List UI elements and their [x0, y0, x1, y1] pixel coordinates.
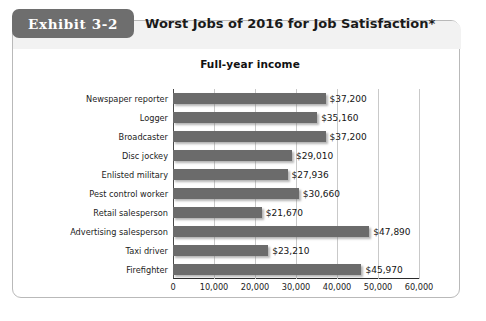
- x-tick-label: 20,000: [241, 282, 270, 292]
- bar-value-label: $47,890: [373, 227, 410, 238]
- x-tick-label: 60,000: [405, 282, 434, 292]
- bar-value-label: $30,660: [303, 189, 340, 200]
- bar-value-label: $21,670: [266, 208, 303, 219]
- x-tick-label: 10,000: [200, 282, 229, 292]
- bar: [173, 150, 292, 161]
- bar-value-label: $37,200: [330, 94, 367, 105]
- exhibit-badge: Exhibit 3-2: [12, 9, 134, 38]
- exhibit-card: Exhibit 3-2 Worst Jobs of 2016 for Job S…: [12, 20, 460, 298]
- bar-value-label: $37,200: [330, 132, 367, 143]
- exhibit-title: Worst Jobs of 2016 for Job Satisfaction*: [145, 9, 435, 38]
- category-label: Disc jockey: [122, 151, 168, 162]
- gridline: [419, 89, 420, 279]
- category-label: Firefighter: [126, 265, 168, 276]
- bar-value-label: $35,160: [321, 113, 358, 124]
- bar: [173, 112, 317, 123]
- bar: [173, 93, 326, 104]
- x-tick-label: 40,000: [323, 282, 352, 292]
- bar-chart-plot: Newspaper reporter$37,200Logger$35,160Br…: [173, 89, 419, 279]
- bar: [173, 207, 262, 218]
- chart-area: Full-year income Newspaper reporter$37,2…: [13, 49, 459, 297]
- bar: [173, 188, 299, 199]
- category-label: Pest control worker: [89, 189, 168, 200]
- bar: [173, 245, 268, 256]
- x-tick-label: 0: [170, 282, 175, 292]
- bar: [173, 226, 369, 237]
- bar: [173, 264, 361, 275]
- bar-value-label: $29,010: [296, 151, 333, 162]
- x-tick-label: 30,000: [282, 282, 311, 292]
- chart-title: Full-year income: [13, 58, 459, 70]
- category-label: Newspaper reporter: [86, 94, 168, 105]
- category-label: Advertising salesperson: [70, 227, 168, 238]
- category-label: Retail salesperson: [93, 208, 168, 219]
- x-tick-label: 50,000: [364, 282, 393, 292]
- bar-value-label: $45,970: [365, 265, 402, 276]
- bar: [173, 131, 326, 142]
- exhibit-badge-label: Exhibit 3-2: [28, 16, 118, 32]
- bar: [173, 169, 288, 180]
- category-label: Taxi driver: [126, 246, 168, 257]
- bar-value-label: $23,210: [272, 246, 309, 257]
- bar-value-label: $27,936: [292, 170, 329, 181]
- category-label: Broadcaster: [119, 132, 168, 143]
- category-label: Enlisted military: [102, 170, 168, 181]
- category-label: Logger: [140, 113, 168, 124]
- gridline: [378, 89, 379, 279]
